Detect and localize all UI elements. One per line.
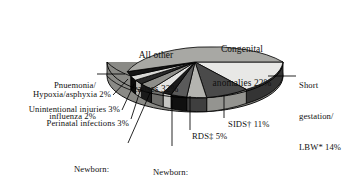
label-unintentional-injuries: Unintentional injuries 3% <box>8 104 120 114</box>
label-short-gestation-line2: gestation/ <box>299 111 348 121</box>
label-rds: RDS‡ 5% <box>192 131 252 141</box>
label-pneumonia-influenza: Pnuemonia/ influenza 2% <box>20 60 96 142</box>
label-congenital-anomalies: Congenital anomalies 22% <box>196 22 288 112</box>
label-newborn-placenta-line1: Newborn: <box>74 164 146 174</box>
label-newborn-pregnancy: Newborn: pregnancy complications 4% <box>153 147 233 196</box>
label-short-gestation-lbw: Short gestation/ LBW* 14% <box>299 60 348 172</box>
label-all-other-causes-line2: causes 32% <box>117 84 195 95</box>
pie-chart-figure: Congenital anomalies 22% All other cause… <box>0 0 348 196</box>
label-congenital-anomalies-line1: Congenital <box>196 44 288 55</box>
label-all-other-causes-line1: All other <box>117 50 195 61</box>
label-sids: SIDS† 11% <box>228 119 298 129</box>
label-newborn-pregnancy-line1: Newborn: <box>153 167 233 177</box>
label-short-gestation-line1: Short <box>299 80 348 90</box>
label-perinatal-infections: Perinatal infections 3% <box>24 118 129 128</box>
label-all-other-causes: All other causes 32% <box>117 28 195 118</box>
label-short-gestation-line3: LBW* 14% <box>299 142 348 152</box>
label-congenital-anomalies-line2: anomalies 22% <box>196 78 288 89</box>
label-newborn-placenta-line2: placenta/cord <box>74 195 146 196</box>
label-hypoxia-asphyxia: Hypoxia/asphyxia 2% <box>4 89 111 99</box>
label-newborn-placenta-cord: Newborn: placenta/cord complications 2% <box>74 144 146 196</box>
